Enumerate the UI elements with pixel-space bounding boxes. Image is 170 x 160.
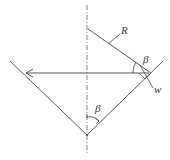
- r-leader-line: [108, 34, 120, 44]
- label-beta-bottom: β: [94, 102, 101, 114]
- label-beta-top: β: [142, 53, 149, 65]
- label-w: w: [154, 83, 162, 95]
- angle-arc-top: [133, 62, 136, 73]
- left-cone-line: [10, 61, 87, 135]
- label-r: R: [120, 24, 128, 36]
- vertex-point: [86, 134, 88, 136]
- normal-line-w: [140, 65, 153, 88]
- angle-arc-bottom: [87, 117, 99, 121]
- geometry-diagram: R w β β: [0, 0, 170, 160]
- right-cone-line: [87, 61, 163, 135]
- ray-r: [88, 29, 151, 73]
